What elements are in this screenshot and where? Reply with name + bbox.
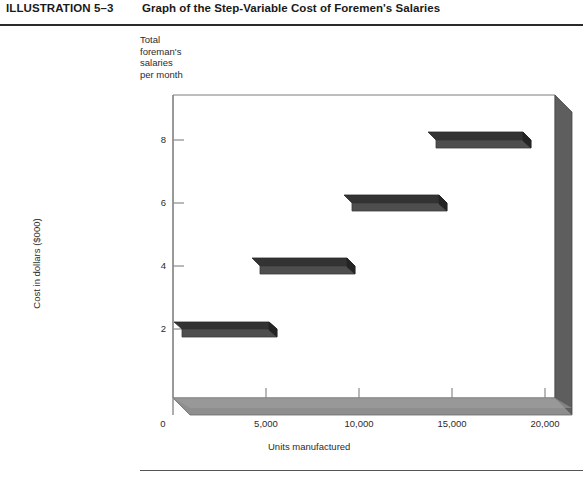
x-tick-label-20000: 20,000 bbox=[521, 418, 569, 429]
step-bar-2-top bbox=[252, 258, 355, 266]
x-axis-title: Units manufactured bbox=[268, 441, 350, 452]
illustration-number: ILLUSTRATION 5–3 bbox=[6, 2, 113, 14]
step-bar-2 bbox=[252, 258, 355, 274]
step-bar-2-front bbox=[260, 266, 355, 274]
chart-right-wall bbox=[555, 95, 572, 415]
step-bar-3 bbox=[344, 195, 447, 211]
illustration-title: Graph of the Step-Variable Cost of Forem… bbox=[142, 2, 440, 14]
footer-divider-rule bbox=[140, 470, 583, 471]
step-bar-4-front bbox=[436, 140, 531, 148]
step-bar-4 bbox=[428, 132, 531, 148]
step-bar-1-top bbox=[174, 322, 277, 329]
x-tick-label-15000: 15,000 bbox=[428, 418, 476, 429]
x-tick-label-0: 0 bbox=[139, 418, 187, 429]
x-tick-label-10000: 10,000 bbox=[335, 418, 383, 429]
chart-figure: Total foreman's salaries per month bbox=[0, 26, 583, 466]
x-tick-label-5000: 5,000 bbox=[242, 418, 290, 429]
chart-floor-shade bbox=[173, 398, 572, 408]
step-bar-4-top bbox=[428, 132, 531, 140]
step-bar-3-front bbox=[352, 203, 447, 211]
step-bar-1 bbox=[174, 322, 277, 337]
step-bar-3-top bbox=[344, 195, 447, 203]
step-variable-cost-chart bbox=[0, 26, 583, 466]
y-tick-label-4: 4 bbox=[142, 260, 166, 271]
y-axis-title: Cost in dollars ($000) bbox=[31, 184, 42, 344]
step-bar-1-front bbox=[182, 329, 277, 337]
y-tick-label-2: 2 bbox=[142, 323, 166, 334]
y-tick-label-6: 6 bbox=[142, 197, 166, 208]
illustration-page: ILLUSTRATION 5–3 Graph of the Step-Varia… bbox=[0, 0, 583, 491]
y-tick-label-8: 8 bbox=[142, 134, 166, 145]
